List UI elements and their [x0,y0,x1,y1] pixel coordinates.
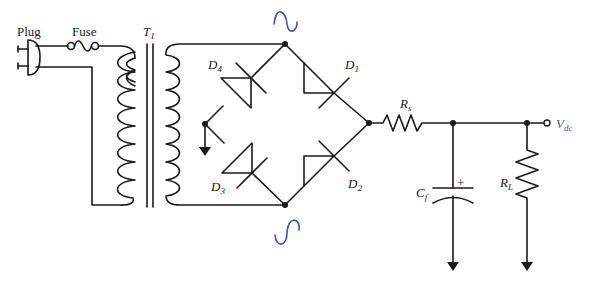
vdc-label: Vdc [556,117,572,133]
wire-plug-return [36,67,122,205]
schematic-svg [0,0,593,285]
diode-d4-icon [205,44,285,124]
ac-sine-bottom-icon [275,220,299,244]
d1-label: D1 [345,58,359,74]
resistor-rl-icon [516,123,538,271]
ac-sine-top-icon [274,12,297,31]
resistor-rs-icon [369,115,453,131]
d2-label: D2 [348,177,362,193]
rs-label: Rs [400,97,411,113]
capacitor-cf-icon [433,123,473,271]
fuse-label: Fuse [72,25,97,38]
cap-polarity-label: + [457,176,464,189]
plug-label: Plug [17,25,41,38]
d3-label: D3 [211,180,225,196]
d4-label: D4 [208,58,222,74]
primary-coil-icon [117,52,135,205]
fuse-icon [68,41,99,51]
vdc-terminal [544,120,550,126]
cf-label: Cf [416,186,427,202]
secondary-coil-icon [166,44,285,205]
transformer-label: T1 [143,25,155,41]
circuit-diagram: Plug Fuse T1 D4 D1 D3 D2 Rs Cf + RL Vdc [0,0,593,285]
wire-fuse-primary [99,46,136,58]
rl-label: RL [500,176,513,192]
diode-d1-icon [285,44,369,123]
